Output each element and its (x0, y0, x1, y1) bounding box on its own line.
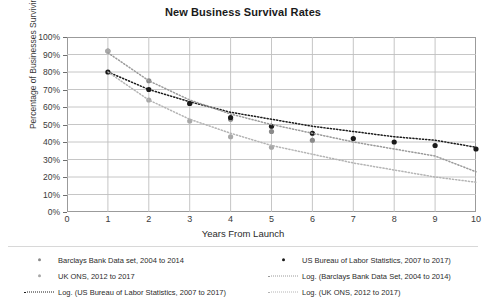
legend-item[interactable]: Log. (UK ONS, 2012 to 2017) (268, 284, 486, 300)
legend-item[interactable]: UK ONS, 2012 to 2017 (24, 268, 264, 284)
chart-legend: Barclays Bank Data set, 2004 to 2014UK O… (24, 252, 464, 300)
y-tick-mark (63, 160, 67, 161)
x-tick-label: 3 (187, 214, 192, 224)
y-tick-mark (63, 212, 67, 213)
legend-column-left: Barclays Bank Data set, 2004 to 2014UK O… (24, 252, 264, 300)
plot-area (67, 37, 476, 212)
page-title: New Business Survival Rates (0, 6, 486, 18)
y-tick-mark (63, 90, 67, 91)
x-tick-label: 4 (228, 214, 233, 224)
legend-key-marker (24, 255, 58, 265)
x-tick-label: 6 (310, 214, 315, 224)
y-tick-mark (63, 125, 67, 126)
series-data-point (228, 134, 233, 139)
legend-item[interactable]: Log. (US Bureau of Labor Statistics, 200… (24, 284, 264, 300)
y-tick-label: 100% (38, 32, 60, 42)
y-tick-mark (63, 142, 67, 143)
y-tick-label: 20% (43, 172, 60, 182)
legend-key-line (268, 287, 302, 297)
y-tick-label: 40% (43, 137, 60, 147)
legend-marker-icon (282, 258, 285, 261)
x-axis-tick-labels: 012345678910 (67, 214, 476, 228)
legend-marker-icon (38, 274, 41, 277)
legend-key-marker (268, 255, 302, 265)
y-tick-mark (63, 107, 67, 108)
series-data-point (228, 115, 233, 120)
legend-dotted-line-icon (268, 292, 298, 293)
y-tick-mark (63, 55, 67, 56)
y-tick-label: 0% (48, 207, 60, 217)
legend-item[interactable]: Barclays Bank Data set, 2004 to 2014 (24, 252, 264, 268)
series-data-point (269, 129, 274, 134)
x-tick-label: 2 (146, 214, 151, 224)
x-axis-title: Years From Launch (0, 228, 486, 239)
legend-item-label: Log. (Barclays Bank Data Set, 2004 to 20… (302, 272, 451, 281)
y-tick-label: 60% (43, 102, 60, 112)
y-tick-label: 10% (43, 190, 60, 200)
legend-dotted-line-icon (268, 276, 298, 277)
x-tick-label: 10 (471, 214, 481, 224)
x-tick-label: 0 (64, 214, 69, 224)
legend-item[interactable]: US Bureau of Labor Statistics, 2007 to 2… (268, 252, 486, 268)
series-data-point (351, 136, 356, 141)
x-tick-label: 5 (269, 214, 274, 224)
y-tick-mark (63, 177, 67, 178)
series-data-point (310, 138, 315, 143)
legend-item-label: Barclays Bank Data set, 2004 to 2014 (58, 256, 184, 265)
y-tick-label: 30% (43, 155, 60, 165)
series-data-point (433, 143, 438, 148)
legend-key-line (24, 287, 58, 297)
y-tick-label: 90% (43, 50, 60, 60)
chart-page: New Business Survival Rates Percentage o… (0, 0, 486, 307)
y-tick-mark (63, 195, 67, 196)
series-trendline (108, 72, 476, 147)
y-axis-tick-labels: 0%10%20%30%40%50%60%70%80%90%100% (18, 37, 64, 212)
legend-divider (8, 246, 478, 247)
legend-item-label: Log. (US Bureau of Labor Statistics, 200… (58, 288, 226, 297)
legend-column-right: US Bureau of Labor Statistics, 2007 to 2… (268, 252, 486, 300)
x-tick-label: 1 (105, 214, 110, 224)
legend-item-label: US Bureau of Labor Statistics, 2007 to 2… (302, 256, 451, 265)
legend-key-marker (24, 271, 58, 281)
x-tick-label: 8 (392, 214, 397, 224)
series-data-point (392, 139, 397, 144)
legend-marker-icon (38, 258, 41, 261)
x-tick-label: 7 (351, 214, 356, 224)
series-trendline (108, 72, 476, 182)
y-tick-label: 70% (43, 85, 60, 95)
legend-item-label: Log. (UK ONS, 2012 to 2017) (302, 288, 400, 297)
legend-item[interactable]: Log. (Barclays Bank Data Set, 2004 to 20… (268, 268, 486, 284)
series-trendline (108, 53, 476, 172)
y-tick-label: 80% (43, 67, 60, 77)
legend-dotted-line-icon (24, 292, 54, 293)
legend-item-label: UK ONS, 2012 to 2017 (58, 272, 135, 281)
y-tick-mark (63, 37, 67, 38)
x-tick-label: 9 (433, 214, 438, 224)
y-tick-label: 50% (43, 120, 60, 130)
legend-key-line (268, 271, 302, 281)
y-tick-mark (63, 72, 67, 73)
plot-svg (67, 37, 476, 212)
